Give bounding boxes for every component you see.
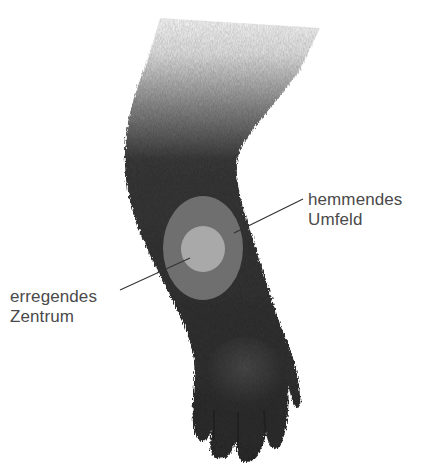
center-label-line1: erregendes <box>10 287 97 307</box>
center-label-line2: Zentrum <box>10 307 97 327</box>
arm-illustration <box>0 0 433 473</box>
excitatory-center <box>181 226 225 272</box>
surround-label-line1: hemmendes <box>308 190 402 210</box>
surround-label-line2: Umfeld <box>308 210 402 230</box>
surround-label: hemmendes Umfeld <box>308 190 402 230</box>
center-label: erregendes Zentrum <box>10 287 97 327</box>
